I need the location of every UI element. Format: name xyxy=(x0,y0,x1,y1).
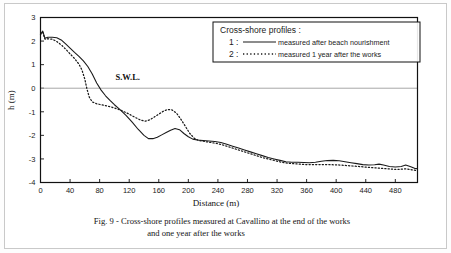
x-axis-label: Distance (m) xyxy=(193,198,240,208)
x-tick-labels: 04080120160200240280320360400440480 xyxy=(38,186,401,195)
svg-text:2: 2 xyxy=(31,37,35,46)
y-tick-labels: 3210-1-2-3-4 xyxy=(29,13,36,187)
svg-text:-4: -4 xyxy=(29,178,36,187)
cross-shore-profile-chart: 04080120160200240280320360400440480 3210… xyxy=(0,0,451,253)
svg-text:40: 40 xyxy=(66,186,74,195)
svg-text:360: 360 xyxy=(300,186,313,195)
legend-label-1: measured after beach nourishment xyxy=(278,38,389,47)
svg-text:440: 440 xyxy=(359,186,372,195)
svg-text:80: 80 xyxy=(95,186,103,195)
figure-caption-line-2: and one year after the works xyxy=(147,228,245,238)
svg-text:200: 200 xyxy=(182,186,195,195)
legend-label-2: measured 1 year after the works xyxy=(278,50,381,59)
svg-text:400: 400 xyxy=(330,186,343,195)
figure-caption-line-1: Fig. 9 - Cross-shore profiles measured a… xyxy=(94,216,351,226)
legend: Cross-shore profiles : 1 : measured afte… xyxy=(213,22,420,62)
swl-annotation: S.W.L. xyxy=(115,72,140,82)
y-axis-label: h (m) xyxy=(6,90,16,110)
svg-text:320: 320 xyxy=(271,186,284,195)
legend-key-2: 2 : xyxy=(229,49,238,59)
legend-title: Cross-shore profiles : xyxy=(220,25,301,35)
svg-text:160: 160 xyxy=(153,186,166,195)
svg-text:1: 1 xyxy=(31,60,35,69)
svg-text:-2: -2 xyxy=(29,131,36,140)
chart-area: 04080120160200240280320360400440480 3210… xyxy=(0,0,451,253)
legend-key-1: 1 : xyxy=(229,37,238,47)
svg-text:480: 480 xyxy=(389,186,402,195)
svg-text:0: 0 xyxy=(38,186,42,195)
svg-text:3: 3 xyxy=(31,13,35,22)
figure-container: 04080120160200240280320360400440480 3210… xyxy=(0,0,451,253)
svg-text:120: 120 xyxy=(123,186,136,195)
svg-text:-3: -3 xyxy=(29,155,36,164)
svg-text:240: 240 xyxy=(212,186,225,195)
svg-text:0: 0 xyxy=(31,84,35,93)
svg-text:-1: -1 xyxy=(29,108,36,117)
svg-text:280: 280 xyxy=(241,186,254,195)
